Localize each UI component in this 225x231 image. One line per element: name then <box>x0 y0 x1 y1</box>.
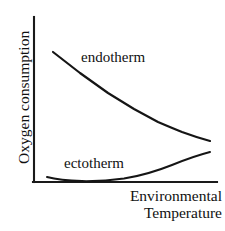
figure-container: Oxygen consumption EnvironmentalTemperat… <box>0 0 225 231</box>
series-label-ectotherm: ectotherm <box>64 155 124 171</box>
y-axis-label: Oxygen consumption <box>16 13 33 181</box>
series-label-endotherm: endotherm <box>81 49 145 65</box>
x-axis-label-line-2: Temperature <box>112 205 222 222</box>
x-axis-label-line-1: Environmental <box>130 187 222 204</box>
series-line-endotherm <box>53 52 210 141</box>
x-axis-label: EnvironmentalTemperature <box>112 188 222 221</box>
